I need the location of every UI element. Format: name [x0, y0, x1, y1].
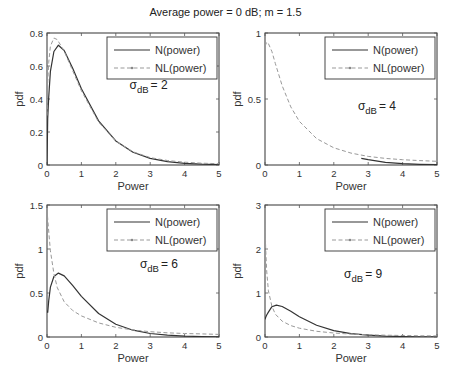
- x-tick-label: 3: [366, 340, 371, 351]
- legend-label: N(power): [373, 216, 418, 228]
- legend-label: N(power): [373, 44, 418, 56]
- x-tick-label: 4: [182, 340, 187, 351]
- y-tick-label: 1: [256, 288, 261, 299]
- y-axis-label: pdf: [231, 90, 243, 106]
- legend-label: NL(power): [155, 62, 206, 74]
- y-tick-label: 0.5: [30, 288, 43, 299]
- x-tick-label: 2: [113, 340, 118, 351]
- y-tick-label: 3: [256, 200, 261, 211]
- x-tick-label: 4: [182, 168, 187, 179]
- legend: N(power)NL(power): [325, 209, 435, 251]
- y-tick-label: 1: [38, 244, 43, 255]
- x-tick-label: 1: [79, 340, 84, 351]
- y-tick-label: 0.4: [30, 94, 43, 105]
- x-tick-label: 3: [148, 168, 153, 179]
- x-axis-label: Power: [335, 180, 367, 192]
- y-tick-label: 0: [38, 160, 43, 171]
- series-n-power: [361, 158, 437, 164]
- x-tick-label: 3: [148, 340, 153, 351]
- x-tick-label: 1: [297, 168, 302, 179]
- y-tick-label: 2: [256, 244, 261, 255]
- x-tick-label: 0: [44, 340, 49, 351]
- legend-label: NL(power): [373, 234, 424, 246]
- x-tick-label: 3: [366, 168, 371, 179]
- legend-label: NL(power): [155, 234, 206, 246]
- x-tick-label: 4: [400, 340, 405, 351]
- panel-top-left: 01234500.20.40.60.8PowerpdfN(power)NL(po…: [13, 28, 222, 193]
- y-tick-label: 0: [256, 160, 261, 171]
- x-tick-label: 0: [262, 168, 267, 179]
- y-tick-label: 1: [256, 28, 261, 39]
- x-axis-label: Power: [117, 180, 149, 192]
- x-tick-label: 5: [216, 168, 221, 179]
- x-tick-label: 4: [400, 168, 405, 179]
- y-tick-label: 0.5: [248, 94, 261, 105]
- x-tick-label: 0: [44, 168, 49, 179]
- y-tick-label: 0: [256, 332, 261, 343]
- x-axis-label: Power: [335, 352, 367, 364]
- figure-canvas: 01234500.20.40.60.8PowerpdfN(power)NL(po…: [0, 0, 451, 380]
- x-tick-label: 5: [434, 340, 439, 351]
- y-tick-label: 1.5: [30, 200, 43, 211]
- y-tick-label: 0.2: [30, 127, 43, 138]
- panel-bottom-left: 01234500.511.5PowerpdfN(power)NL(power)σ…: [13, 200, 222, 365]
- series-n-power: [47, 273, 219, 337]
- legend: N(power)NL(power): [325, 37, 435, 79]
- sigma-annotation: σdB= 2: [130, 78, 168, 95]
- sigma-annotation: σdB= 6: [140, 257, 178, 274]
- series-n-power: [265, 305, 437, 337]
- legend-label: N(power): [155, 44, 200, 56]
- y-tick-label: 0.6: [30, 61, 43, 72]
- y-axis-label: pdf: [13, 90, 25, 106]
- x-tick-label: 1: [297, 340, 302, 351]
- x-tick-label: 2: [113, 168, 118, 179]
- y-tick-label: 0: [38, 332, 43, 343]
- sigma-annotation: σdB= 4: [358, 99, 396, 116]
- legend-label: N(power): [155, 216, 200, 228]
- y-axis-label: pdf: [231, 262, 243, 278]
- x-tick-label: 2: [331, 168, 336, 179]
- panel-bottom-right: 0123450123PowerpdfN(power)NL(power)σdB= …: [231, 200, 440, 365]
- x-tick-label: 2: [331, 340, 336, 351]
- panel-top-right: 01234500.51PowerpdfN(power)NL(power)σdB=…: [231, 28, 440, 193]
- y-tick-label: 0.8: [30, 28, 43, 39]
- legend: N(power)NL(power): [107, 37, 217, 79]
- legend-label: NL(power): [373, 62, 424, 74]
- x-tick-label: 0: [262, 340, 267, 351]
- x-axis-label: Power: [117, 352, 149, 364]
- x-tick-label: 1: [79, 168, 84, 179]
- x-tick-label: 5: [216, 340, 221, 351]
- y-axis-label: pdf: [13, 262, 25, 278]
- sigma-annotation: σdB= 9: [344, 267, 382, 284]
- x-tick-label: 5: [434, 168, 439, 179]
- legend: N(power)NL(power): [107, 209, 217, 251]
